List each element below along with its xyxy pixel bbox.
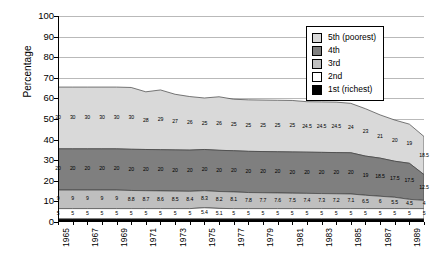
data-label: 28 <box>143 118 148 123</box>
x-axis-tick-mark <box>248 222 249 225</box>
data-label: 8.5 <box>172 197 179 202</box>
data-label: 8.6 <box>157 197 164 202</box>
data-label: 25 <box>275 123 280 128</box>
x-axis-tick-label: 1979 <box>266 228 275 247</box>
x-axis-tick-label: 1987 <box>384 228 393 247</box>
data-label: 30 <box>70 115 75 120</box>
x-axis-tick-mark <box>73 222 74 225</box>
x-axis-tick-label: 1965 <box>62 228 71 247</box>
data-label: 20 <box>70 167 75 172</box>
x-axis-tick-mark <box>190 222 191 225</box>
legend-swatch-icon <box>312 46 322 56</box>
data-label: 7.6 <box>274 198 281 203</box>
data-label: 5 <box>393 211 396 216</box>
data-label: 20 <box>231 169 236 174</box>
y-axis-tick-label: 60 <box>43 94 54 104</box>
data-label: 25 <box>260 123 265 128</box>
x-axis-tick-mark <box>380 222 381 225</box>
x-axis-tick-mark <box>131 222 132 225</box>
data-label: 5 <box>247 211 250 216</box>
data-label: 26 <box>216 121 221 126</box>
data-label: 21 <box>377 134 382 139</box>
data-label: 9 <box>86 197 89 202</box>
y-axis-tick-mark <box>54 37 58 38</box>
y-axis-tick-label: 10 <box>43 197 54 207</box>
legend-item[interactable]: 5th (poorest) <box>312 31 376 44</box>
data-label: 29 <box>158 117 163 122</box>
data-label: 18.5 <box>375 175 385 180</box>
data-label: 5 <box>101 211 104 216</box>
y-axis-tick-mark <box>54 78 58 79</box>
data-label: 9 <box>101 197 104 202</box>
data-label: 5 <box>379 211 382 216</box>
data-label: 5 <box>232 211 235 216</box>
x-axis-tick-mark <box>58 222 59 225</box>
data-label: 19 <box>407 141 412 146</box>
data-label: 8.4 <box>186 197 193 202</box>
x-axis-tick-mark <box>219 222 220 225</box>
data-label: 5.5 <box>391 200 398 205</box>
data-label: 5 <box>174 211 177 216</box>
x-axis-tick-mark <box>117 222 118 225</box>
data-label: 24.5 <box>317 125 327 130</box>
data-label: 5 <box>320 211 323 216</box>
y-axis-tick-label: 100 <box>38 11 54 21</box>
data-label: 25 <box>231 122 236 127</box>
chart-legend: 5th (poorest)4th3rd2nd1st (richest) <box>306 26 384 101</box>
y-axis-tick-label: 40 <box>43 135 54 145</box>
x-axis-tick-label: 1973 <box>179 228 188 247</box>
data-label: 24.5 <box>331 125 341 130</box>
data-label: 20 <box>275 170 280 175</box>
data-label: 23 <box>363 130 368 135</box>
legend-item[interactable]: 2nd <box>312 70 376 83</box>
legend-item-label: 5th (poorest) <box>328 33 376 42</box>
data-label: 25 <box>202 121 207 126</box>
x-axis-tick-mark <box>322 222 323 225</box>
legend-swatch-icon <box>312 85 322 95</box>
legend-item-label: 1st (richest) <box>328 85 372 94</box>
data-label: 8.8 <box>128 197 135 202</box>
x-axis-tick-mark <box>409 222 410 225</box>
y-axis-tick-mark <box>54 98 58 99</box>
data-label: 4 <box>423 202 426 207</box>
data-label: 7.4 <box>303 198 310 203</box>
data-label: 6.5 <box>362 199 369 204</box>
data-label: 30 <box>85 115 90 120</box>
y-axis-tick-label: 50 <box>43 114 54 124</box>
data-label: 5 <box>71 211 74 216</box>
x-axis-tick-label: 1977 <box>237 228 246 247</box>
x-axis-line <box>58 221 424 222</box>
x-axis-tick-mark <box>234 222 235 225</box>
x-axis-tick-label: 1971 <box>149 228 158 247</box>
data-label: 30 <box>114 115 119 120</box>
x-axis-tick-mark <box>160 222 161 225</box>
data-label: 7.5 <box>289 198 296 203</box>
chart-root: Percentage 30303030303028292726252625252… <box>0 0 433 269</box>
data-label: 5 <box>276 211 279 216</box>
data-label: 20 <box>143 167 148 172</box>
data-label: 6 <box>379 200 382 205</box>
y-axis-tick-label: 30 <box>43 155 54 165</box>
data-label: 7.7 <box>260 198 267 203</box>
data-label: 17.5 <box>390 177 400 182</box>
data-label: 19 <box>363 173 368 178</box>
data-label: 8.3 <box>201 197 208 202</box>
data-label: 20 <box>289 170 294 175</box>
data-label: 20 <box>187 168 192 173</box>
data-label: 20 <box>216 168 221 173</box>
x-axis-tick-mark <box>351 222 352 225</box>
x-axis-tick-label: 1985 <box>354 228 363 247</box>
area-band <box>58 208 424 219</box>
data-label: 12.5 <box>419 185 429 190</box>
y-axis-tick-label: 90 <box>43 32 54 42</box>
data-label: 20 <box>246 169 251 174</box>
data-label: 5 <box>144 211 147 216</box>
x-axis-tick-mark <box>263 222 264 225</box>
legend-item[interactable]: 3rd <box>312 57 376 70</box>
y-axis-tick-label: 80 <box>43 52 54 62</box>
legend-item[interactable]: 1st (richest) <box>312 83 376 96</box>
y-axis-tick-mark <box>54 181 58 182</box>
legend-swatch-icon <box>312 72 322 82</box>
y-axis-line <box>58 16 59 222</box>
legend-item[interactable]: 4th <box>312 44 376 57</box>
